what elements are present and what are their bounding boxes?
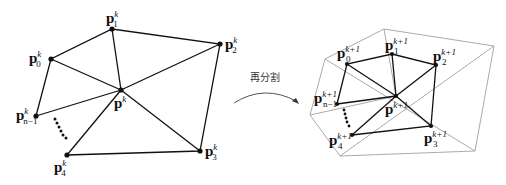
left-label-center: pk [114, 94, 127, 111]
right-point-p3 [429, 124, 433, 128]
left-spoke-pn1 [36, 90, 121, 116]
left-point-p0 [48, 56, 53, 61]
left-point-p4 [64, 152, 69, 157]
right-label-p0: pk+10 [337, 44, 360, 64]
right-point-center [394, 94, 398, 98]
left-spoke-p4 [67, 90, 121, 155]
left-label-p0: pk0 [29, 49, 42, 69]
right-ellipsis-dots [343, 109, 351, 128]
left-point-p3 [197, 148, 202, 153]
left-label-p3: pk3 [205, 142, 218, 162]
subdivision-diagram: pk1 pk2 pk0 pk pkn−1 pk4 pk3 再分割 [0, 0, 506, 185]
left-spoke-p2 [121, 44, 220, 90]
left-vertex-points [33, 26, 222, 157]
arrow-head-icon [292, 98, 299, 104]
right-label-p3: pk+13 [424, 129, 447, 149]
right-label-center: pk+1 [385, 100, 408, 117]
right-label-p4: pk+14 [329, 131, 352, 151]
left-spoke-p3 [121, 90, 200, 151]
left-label-pn1: pkn−1 [16, 106, 37, 126]
left-spoke-p1 [112, 29, 121, 90]
subdivision-caption: 再分割 [250, 71, 280, 83]
right-spoke-p0 [347, 64, 396, 96]
left-label-p1: pk1 [106, 9, 119, 29]
right-vertex-points [335, 52, 438, 137]
left-spoke-p0 [51, 59, 121, 90]
left-label-p2: pk2 [225, 35, 238, 55]
left-label-p4: pk4 [54, 158, 67, 178]
left-point-center [118, 87, 123, 92]
left-point-p2 [217, 41, 222, 46]
left-ellipsis-dots [54, 118, 68, 140]
right-label-pn1: pk+1n−1 [314, 89, 337, 109]
curved-arrow [234, 93, 296, 103]
